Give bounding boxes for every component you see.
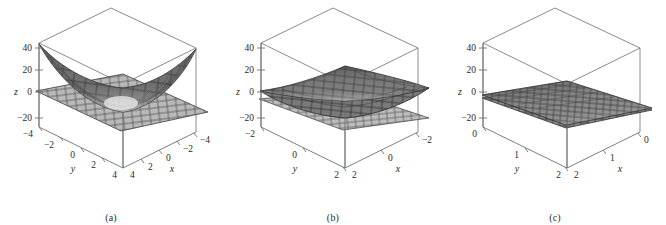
z-tick-c-1: 20 xyxy=(467,65,477,75)
x-axis-label-a: x xyxy=(169,163,175,174)
z-tick-b-3: −20 xyxy=(239,113,254,123)
x-tick-b-1: 0 xyxy=(388,153,393,163)
y-tick-c-1: 1 xyxy=(514,150,519,160)
y-axis-label-a: y xyxy=(70,163,76,174)
x-tick-a-4: −4 xyxy=(200,135,210,145)
surface-plot-c: 40 20 0 −20 z 0 1 2 y xyxy=(444,0,666,200)
x-tick-c-2: 0 xyxy=(644,135,649,145)
y-axis-a: −4 −2 0 2 4 y xyxy=(23,127,123,180)
z-tick-a-2: 0 xyxy=(27,87,32,97)
figure-three-surface-plots: 40 20 0 −20 z −4 −2 0 2 4 y xyxy=(0,0,666,225)
z-tick-b-0: 40 xyxy=(245,43,255,53)
x-axis-a: 4 2 0 −2 −4 x xyxy=(123,132,210,180)
x-tick-b-2: −2 xyxy=(422,135,432,145)
z-axis-label-b: z xyxy=(235,86,240,97)
z-tick-c-0: 40 xyxy=(467,43,477,53)
z-axis-b: 40 20 0 −20 z xyxy=(235,43,265,127)
z-axis-label-c: z xyxy=(457,86,462,97)
y-axis-label-c: y xyxy=(514,163,520,174)
y-axis-b: −2 0 2 y xyxy=(245,127,346,180)
x-tick-a-3: −2 xyxy=(183,144,193,154)
x-tick-a-2: 0 xyxy=(166,153,171,163)
x-tick-c-0: 2 xyxy=(574,170,579,180)
plot-panel-c: 40 20 0 −20 z 0 1 2 y xyxy=(444,0,666,225)
x-axis-label-c: x xyxy=(617,163,623,174)
y-axis-c: 0 1 2 y xyxy=(472,127,568,180)
y-tick-a-2: 0 xyxy=(70,150,75,160)
z-axis-c: 40 20 0 −20 z xyxy=(457,43,487,127)
y-tick-a-4: 4 xyxy=(112,170,117,180)
plot-panel-b: 40 20 0 −20 z −2 0 2 y xyxy=(222,0,444,225)
z-tick-c-2: 0 xyxy=(471,87,476,97)
x-tick-a-1: 2 xyxy=(148,162,153,172)
x-tick-a-0: 4 xyxy=(130,170,135,180)
plot-panel-a: 40 20 0 −20 z −4 −2 0 2 4 y xyxy=(0,0,222,225)
panel-caption-c: (c) xyxy=(444,212,666,223)
x-axis-c: 2 1 0 x xyxy=(567,132,649,180)
y-axis-label-b: y xyxy=(292,163,298,174)
y-tick-b-1: 0 xyxy=(292,150,297,160)
surface-plot-a: 40 20 0 −20 z −4 −2 0 2 4 y xyxy=(0,0,222,200)
z-tick-c-3: −20 xyxy=(461,113,476,123)
panel-caption-a: (a) xyxy=(0,212,222,223)
x-tick-c-1: 1 xyxy=(610,153,615,163)
y-tick-a-0: −4 xyxy=(23,129,33,139)
y-tick-b-0: −2 xyxy=(245,129,255,139)
x-tick-b-0: 2 xyxy=(352,170,357,180)
surface-plot-b: 40 20 0 −20 z −2 0 2 y xyxy=(222,0,444,200)
panel-caption-b: (b) xyxy=(222,212,444,223)
z-tick-a-1: 20 xyxy=(23,65,33,75)
y-tick-c-2: 2 xyxy=(556,170,561,180)
z-tick-a-0: 40 xyxy=(23,43,33,53)
y-tick-c-0: 0 xyxy=(472,129,477,139)
y-tick-a-3: 2 xyxy=(91,160,96,170)
x-axis-label-b: x xyxy=(395,163,401,174)
y-tick-a-1: −2 xyxy=(44,140,54,150)
x-axis-b: 2 0 −2 x xyxy=(345,132,432,180)
z-axis-label-a: z xyxy=(13,86,18,97)
z-axis-a: 40 20 0 −20 z xyxy=(13,43,43,127)
z-tick-b-2: 0 xyxy=(249,87,254,97)
z-tick-b-1: 20 xyxy=(245,65,255,75)
y-tick-b-2: 2 xyxy=(334,170,339,180)
z-tick-a-3: −20 xyxy=(17,113,32,123)
